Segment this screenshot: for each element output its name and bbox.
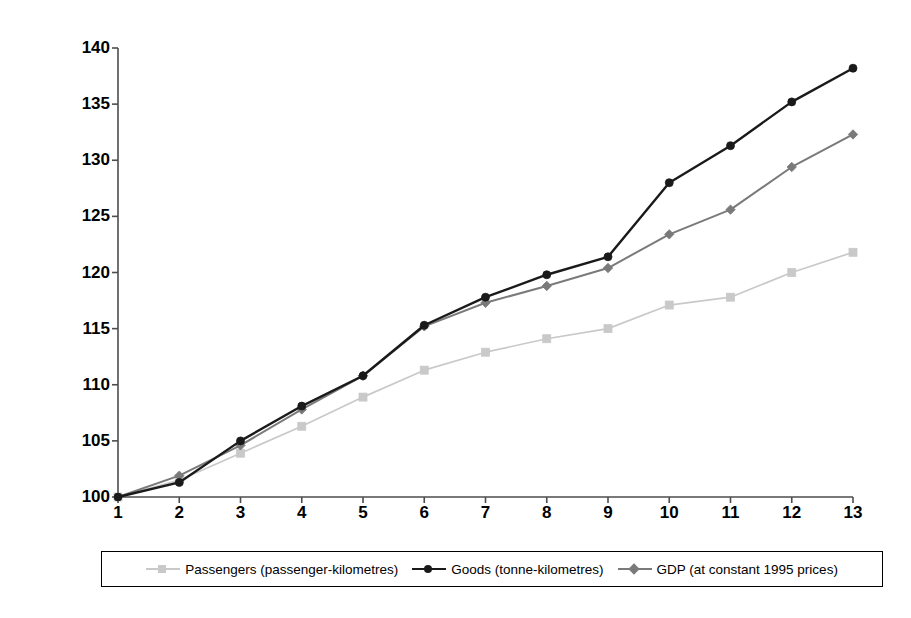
x-tick-label: 3 [221,503,261,523]
y-tick-label: 125 [64,206,110,226]
legend-label: Goods (tonne-kilometres) [451,562,603,577]
chart-legend: Passengers (passenger-kilometres)Goods (… [101,551,883,587]
x-tick-label: 4 [282,503,322,523]
x-tick-label: 8 [527,503,567,523]
y-tick-label: 120 [64,263,110,283]
axis-lines [118,48,853,497]
x-tick-label: 10 [649,503,689,523]
series-line [113,130,857,502]
y-tick-label: 115 [64,319,110,339]
legend-item[interactable]: GDP (at constant 1995 prices) [618,562,838,577]
legend-marker-icon [146,563,180,575]
legend-item[interactable]: Goods (tonne-kilometres) [412,562,603,577]
chart-canvas [118,48,853,497]
legend-marker-icon [618,563,652,575]
legend-label: GDP (at constant 1995 prices) [657,562,838,577]
y-tick-label: 140 [64,38,110,58]
y-tick-label: 110 [64,375,110,395]
x-tick-label: 6 [404,503,444,523]
x-tick-label: 9 [588,503,628,523]
y-tick-label: 130 [64,150,110,170]
x-tick-label: 5 [343,503,383,523]
x-tick-label: 2 [159,503,199,523]
x-tick-label: 12 [772,503,812,523]
y-axis-tick-labels: 100105110115120125130135140 [58,48,110,497]
x-tick-label: 1 [98,503,138,523]
y-tick-label: 105 [64,431,110,451]
series-line [114,64,857,501]
series-line [114,248,857,501]
x-axis-tick-labels: 12345678910111213 [118,503,853,533]
legend-marker-icon [412,563,446,575]
y-axis-ticks [112,48,118,497]
x-tick-label: 13 [833,503,873,523]
x-tick-label: 11 [711,503,751,523]
plot-area [118,48,853,497]
legend-label: Passengers (passenger-kilometres) [185,562,398,577]
legend-item[interactable]: Passengers (passenger-kilometres) [146,562,398,577]
y-tick-label: 135 [64,94,110,114]
x-tick-label: 7 [466,503,506,523]
chart-figure: Index (based on 1995 = 100) 100105110115… [0,0,911,618]
